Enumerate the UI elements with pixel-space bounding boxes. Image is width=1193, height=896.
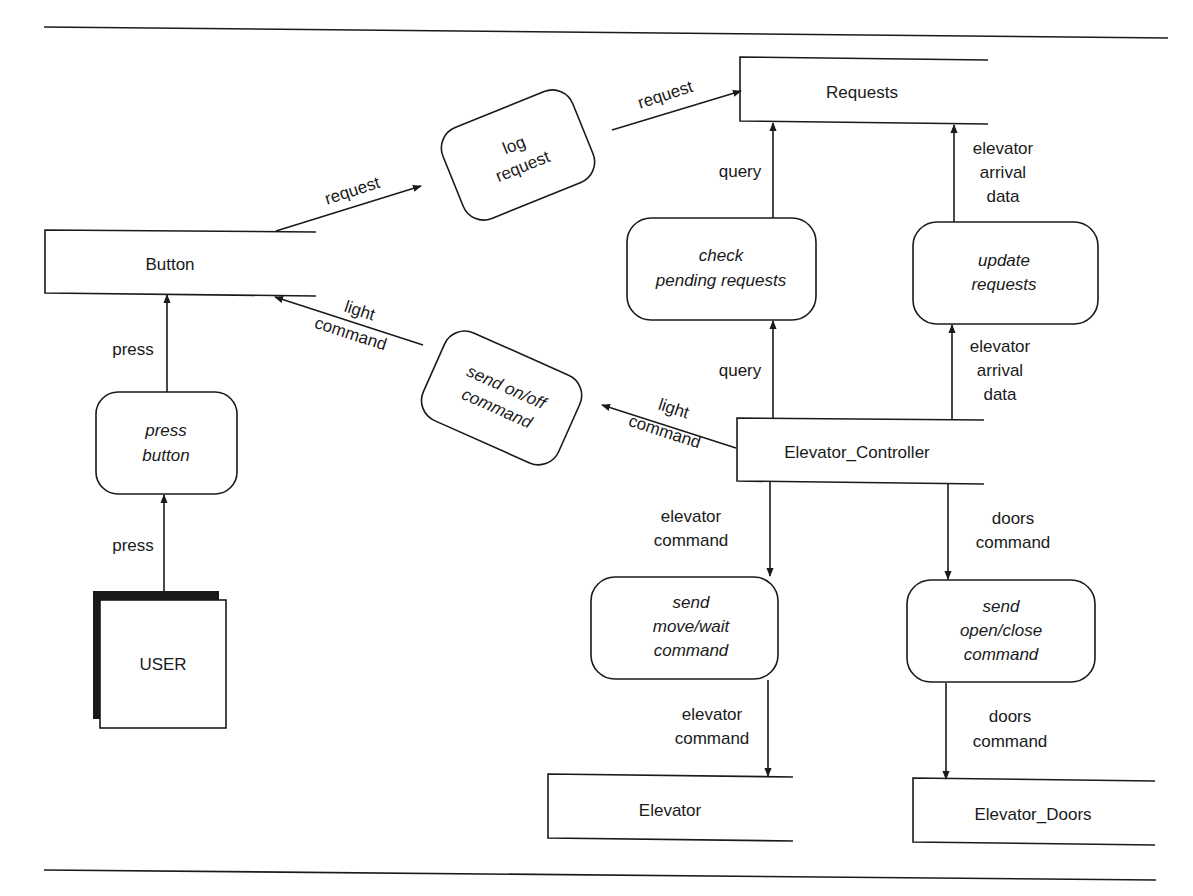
flow-controller-update-line1: elevator bbox=[970, 337, 1031, 356]
process-send-movewait-line3: command bbox=[654, 641, 729, 660]
terminator-user[interactable]: USER bbox=[93, 591, 226, 728]
store-elevator-controller[interactable]: Elevator_Controller bbox=[737, 418, 984, 484]
flow-openclose-doors-line2: command bbox=[973, 732, 1048, 751]
flow-controller-openclose[interactable]: doors command bbox=[948, 484, 1050, 579]
flow-controller-onoff[interactable]: light command bbox=[602, 395, 736, 452]
store-elevator-label: Elevator bbox=[639, 801, 702, 820]
user-label: USER bbox=[139, 655, 186, 674]
flow-press-button[interactable]: press bbox=[112, 295, 167, 392]
flow-user-press[interactable]: press bbox=[112, 495, 164, 591]
store-elevator-doors-label: Elevator_Doors bbox=[974, 805, 1091, 824]
flow-controller-onoff-line1: light bbox=[656, 395, 692, 423]
flow-update-requests-line2: arrival bbox=[980, 163, 1026, 182]
flow-button-log-label: request bbox=[322, 173, 382, 209]
flow-movewait-elevator-line2: command bbox=[675, 729, 750, 748]
flow-controller-check[interactable]: query bbox=[719, 321, 773, 418]
flow-press-button-label: press bbox=[112, 340, 154, 359]
process-update-requests-line1: update bbox=[978, 251, 1030, 270]
process-update-requests-line2: requests bbox=[971, 275, 1037, 294]
store-requests[interactable]: Requests bbox=[740, 57, 988, 124]
flow-controller-openclose-line1: doors bbox=[992, 509, 1035, 528]
flow-user-press-label: press bbox=[112, 536, 154, 555]
process-send-movewait-line1: send bbox=[673, 593, 710, 612]
flow-movewait-elevator[interactable]: elevator command bbox=[675, 680, 768, 776]
store-elevator-controller-label: Elevator_Controller bbox=[784, 443, 930, 462]
flow-controller-onoff-line2: command bbox=[626, 411, 703, 452]
flow-button-log[interactable]: request bbox=[276, 173, 421, 231]
flow-controller-update-line3: data bbox=[983, 385, 1017, 404]
flow-update-requests-line3: data bbox=[986, 187, 1020, 206]
store-button-label: Button bbox=[145, 255, 194, 274]
bottom-rule bbox=[44, 870, 1156, 880]
flow-controller-movewait-line1: elevator bbox=[661, 507, 722, 526]
flow-controller-movewait-line2: command bbox=[654, 531, 729, 550]
top-rule bbox=[44, 27, 1168, 38]
flow-controller-movewait[interactable]: elevator command bbox=[654, 482, 770, 576]
flow-controller-update-line2: arrival bbox=[977, 361, 1023, 380]
flow-controller-openclose-line2: command bbox=[976, 533, 1051, 552]
process-press-button[interactable]: press button bbox=[96, 392, 237, 494]
store-elevator-doors[interactable]: Elevator_Doors bbox=[913, 778, 1155, 845]
process-send-openclose[interactable]: send open/close command bbox=[907, 580, 1095, 682]
store-requests-label: Requests bbox=[826, 83, 898, 102]
flow-update-requests[interactable]: elevator arrival data bbox=[954, 125, 1034, 222]
flow-check-requests[interactable]: query bbox=[719, 123, 773, 218]
flow-check-requests-label: query bbox=[719, 162, 762, 181]
flow-controller-check-label: query bbox=[719, 361, 762, 380]
process-press-button-line2: button bbox=[142, 446, 189, 465]
process-send-openclose-line1: send bbox=[983, 597, 1020, 616]
process-check-pending[interactable]: check pending requests bbox=[627, 218, 816, 320]
process-update-requests[interactable]: update requests bbox=[913, 222, 1098, 324]
process-send-movewait[interactable]: send move/wait command bbox=[591, 577, 778, 679]
process-send-openclose-line3: command bbox=[964, 645, 1039, 664]
process-send-movewait-line2: move/wait bbox=[653, 617, 731, 636]
process-send-onoff[interactable]: send on/off command bbox=[414, 324, 588, 472]
flow-log-requests[interactable]: request bbox=[612, 77, 741, 130]
flow-onoff-button[interactable]: light command bbox=[275, 297, 423, 354]
flow-onoff-button-line2: command bbox=[312, 313, 389, 354]
flow-movewait-elevator-line1: elevator bbox=[682, 705, 743, 724]
process-send-openclose-line2: open/close bbox=[960, 621, 1042, 640]
process-check-pending-line2: pending requests bbox=[655, 271, 787, 290]
process-press-button-line1: press bbox=[144, 421, 187, 440]
flow-update-requests-line1: elevator bbox=[973, 139, 1034, 158]
flow-openclose-doors-line1: doors bbox=[989, 707, 1032, 726]
store-elevator[interactable]: Elevator bbox=[548, 774, 793, 841]
process-log-request[interactable]: log request bbox=[435, 83, 602, 226]
dfd-canvas: Button Requests Elevator_Controller Elev… bbox=[0, 0, 1193, 896]
store-button[interactable]: Button bbox=[45, 230, 316, 296]
flow-controller-update[interactable]: elevator arrival data bbox=[952, 325, 1031, 419]
flow-openclose-doors[interactable]: doors command bbox=[946, 683, 1047, 779]
process-check-pending-line1: check bbox=[699, 246, 745, 265]
